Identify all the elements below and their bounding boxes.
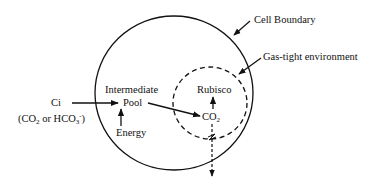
ccm-diagram: Cell Boundary Gas-tight environment Ci (… — [0, 0, 376, 183]
gas-tight-label: Gas-tight environment — [263, 51, 358, 62]
cell-boundary-pointer-arrow — [234, 21, 250, 35]
pool-to-co2-arrow — [148, 103, 200, 116]
rubisco-label: Rubisco — [197, 84, 231, 95]
energy-label: Energy — [116, 127, 147, 138]
ci-label: Ci — [51, 97, 61, 108]
gas-tight-circle — [173, 67, 247, 139]
cell-boundary-label: Cell Boundary — [254, 14, 316, 25]
co2-label: CO2 — [202, 111, 221, 124]
ci-formula-label: (CO2 or HCO3-) — [18, 112, 86, 126]
intermediate-label: Intermediate — [105, 84, 158, 95]
pool-label: Pool — [123, 97, 142, 108]
